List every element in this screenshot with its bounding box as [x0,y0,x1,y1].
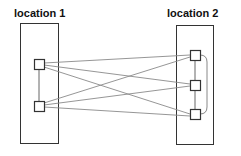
link-loc1n2-loc2n1 [44,57,190,103]
network-diagram [0,0,241,156]
node-loc1-n1 [35,60,45,70]
link-loc1n1-loc2n1 [44,55,190,63]
link-loc1n2-loc2n3 [44,107,190,116]
node-loc2-n1 [191,51,201,61]
node-loc2-n2 [191,81,201,91]
link-loc1n2-loc2n2 [44,86,190,105]
node-loc2-n3 [191,110,201,120]
node-loc1-n2 [35,102,45,112]
